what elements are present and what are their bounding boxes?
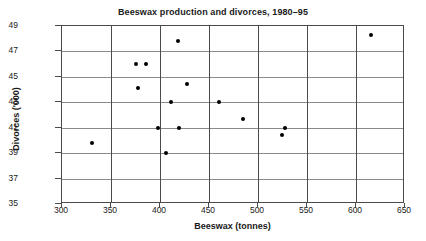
data-point: [164, 151, 168, 155]
gridline-horizontal: [62, 77, 403, 78]
chart-title: Beeswax production and divorces, 1980–95: [0, 7, 426, 17]
gridline-vertical: [258, 26, 259, 202]
y-tick-label: 45: [9, 71, 18, 81]
x-tick-mark: [257, 203, 258, 208]
data-point: [217, 100, 221, 104]
gridline-horizontal: [62, 153, 403, 154]
y-tick-label: 39: [9, 147, 18, 157]
data-point: [283, 126, 287, 130]
x-tick-mark: [110, 203, 111, 208]
gridline-vertical: [111, 26, 112, 202]
gridline-horizontal: [62, 102, 403, 103]
plot-area: [61, 25, 404, 203]
y-tick-label: 49: [9, 20, 18, 30]
y-tick-label: 35: [9, 198, 18, 208]
x-tick-mark: [404, 203, 405, 208]
data-point: [134, 62, 138, 66]
gridline-vertical: [209, 26, 210, 202]
x-tick-mark: [208, 203, 209, 208]
data-point: [241, 117, 245, 121]
x-axis-label: Beeswax (tonnes): [61, 221, 404, 231]
data-point: [177, 126, 181, 130]
gridline-vertical: [160, 26, 161, 202]
data-point: [169, 100, 173, 104]
x-tick-mark: [159, 203, 160, 208]
y-tick-label: 41: [9, 122, 18, 132]
gridline-horizontal: [62, 179, 403, 180]
x-tick-mark: [306, 203, 307, 208]
x-tick-mark: [61, 203, 62, 208]
data-point: [369, 33, 373, 37]
data-point: [156, 126, 160, 130]
data-point: [144, 62, 148, 66]
data-point: [185, 82, 189, 86]
x-tick-mark: [355, 203, 356, 208]
gridline-horizontal: [62, 128, 403, 129]
data-point: [136, 86, 140, 90]
data-point: [280, 133, 284, 137]
data-point: [90, 141, 94, 145]
scatter-chart: Beeswax production and divorces, 1980–95…: [0, 0, 426, 241]
gridline-vertical: [356, 26, 357, 202]
y-tick-label: 43: [9, 96, 18, 106]
data-point: [176, 39, 180, 43]
y-tick-label: 37: [9, 173, 18, 183]
gridline-vertical: [307, 26, 308, 202]
y-tick-label: 47: [9, 45, 18, 55]
gridline-horizontal: [62, 51, 403, 52]
